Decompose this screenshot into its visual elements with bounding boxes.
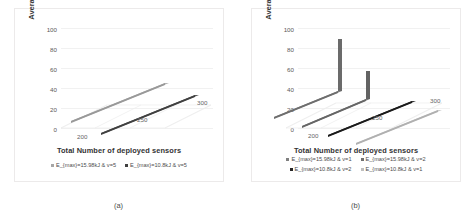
depth-tick-label-250: 250 <box>137 116 147 123</box>
depth-tick-label-250: 250 <box>372 114 382 121</box>
panel-a: Average Disconnection Time(min) 100 80 6… <box>0 0 237 212</box>
panel-b-plot-frame: Average Disconnection Time(min) 100 80 6… <box>251 8 461 182</box>
panel-a-x-axis-title: Total Number of deployed sensors <box>15 146 223 155</box>
legend-label: E_{max}=15.98kJ & v=5 <box>56 162 116 168</box>
legend-item-emax108-v5[interactable]: E_{max}=10.8kJ & v=5 <box>125 162 187 168</box>
panel-a-plot-frame: Average Disconnection Time(min) 100 80 6… <box>14 8 224 182</box>
legend-swatch-icon <box>290 168 293 171</box>
legend-item-emax1598-v2[interactable]: E_{max}=15.98kJ & v=2 <box>361 156 426 162</box>
legend-label: E_{max}=10.8kJ & v=2 <box>295 166 352 172</box>
depth-tick-label-300: 300 <box>197 99 207 106</box>
legend-label: E_{max}=15.98kJ & v=1 <box>291 156 351 162</box>
panel-b-x-axis-title: Total Number of deployed sensors <box>252 146 460 155</box>
series-bar-emax1598-v5 <box>71 83 169 123</box>
legend-swatch-icon <box>286 158 289 161</box>
depth-tick-label-300: 300 <box>430 97 440 104</box>
legend-swatch-icon <box>361 168 364 171</box>
depth-tick-label-200: 200 <box>308 132 318 139</box>
figure-two-panel-3d-bar-charts: Average Disconnection Time(min) 100 80 6… <box>0 0 475 212</box>
legend-label: E_{max}=10.8kJ & v=5 <box>130 162 187 168</box>
legend-row: E_{max}=15.98kJ & v=1 E_{max}=15.98kJ & … <box>252 156 460 162</box>
legend-row: E_{max}=10.8kJ & v=2 E_{max}=10.8kJ & v=… <box>252 166 460 172</box>
legend-item-emax1598-v1[interactable]: E_{max}=15.98kJ & v=1 <box>286 156 351 162</box>
legend-item-emax108-v1[interactable]: E_{max}=10.8kJ & v=1 <box>361 166 423 172</box>
panel-a-caption: (a) <box>0 201 237 210</box>
series-bar-emax108-v5 <box>101 95 199 135</box>
panel-b-legend: E_{max}=15.98kJ & v=1 E_{max}=15.98kJ & … <box>252 156 460 172</box>
panel-a-legend: E_{max}=15.98kJ & v=5 E_{max}=10.8kJ & v… <box>15 162 223 168</box>
legend-label: E_{max}=15.98kJ & v=2 <box>366 156 426 162</box>
panel-b: Average Disconnection Time(min) 100 80 6… <box>237 0 474 212</box>
legend-label: E_{max}=10.8kJ & v=1 <box>366 166 423 172</box>
series-bar-emax1598-v2 <box>302 71 370 128</box>
legend-swatch-icon <box>125 164 128 167</box>
panel-b-caption: (b) <box>237 201 474 210</box>
legend-swatch-icon <box>51 164 54 167</box>
depth-tick-label-200: 200 <box>77 133 87 140</box>
panel-a-svg <box>15 9 223 181</box>
legend-swatch-icon <box>361 158 364 161</box>
legend-item-emax1598-v5[interactable]: E_{max}=15.98kJ & v=5 <box>51 162 116 168</box>
legend-item-emax108-v2[interactable]: E_{max}=10.8kJ & v=2 <box>290 166 352 172</box>
panel-a-data-area <box>15 9 223 181</box>
series-bar-emax108-v1 <box>356 110 442 145</box>
series-bar-emax1598-v1 <box>274 39 342 119</box>
legend-row: E_{max}=15.98kJ & v=5 E_{max}=10.8kJ & v… <box>15 162 223 168</box>
